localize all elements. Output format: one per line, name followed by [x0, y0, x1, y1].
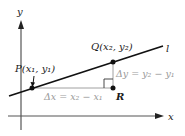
y-axis-label: y: [16, 6, 23, 17]
delta-x-annotation: Δx = x₂ − x₁: [43, 91, 103, 102]
point-r: [111, 86, 116, 91]
x-axis-arrow-icon: [155, 113, 164, 119]
delta-y-annotation: Δy = y₂ − y₁: [115, 68, 175, 79]
y-axis-arrow-icon: [18, 20, 24, 29]
x-axis: [8, 113, 164, 119]
point-p-label: P(x₁, y₁): [14, 63, 55, 74]
slope-diagram: y x l P(x₁, y₁) Q(x₂, y₂) R Δy = y₂ − y₁…: [0, 0, 185, 136]
line-l-label: l: [166, 43, 169, 54]
x-axis-label: x: [168, 111, 174, 122]
point-q-label: Q(x₂, y₂): [91, 41, 133, 52]
point-r-label: R: [115, 91, 124, 102]
y-axis: [18, 20, 24, 130]
point-q: [111, 60, 116, 65]
point-p: [30, 86, 35, 91]
